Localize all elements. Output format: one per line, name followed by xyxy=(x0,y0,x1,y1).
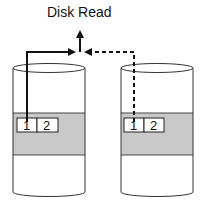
disk-1-blocks: 1 2 xyxy=(17,118,58,133)
disk-2-bottom xyxy=(121,192,193,197)
disk-2-blocks: 1 2 xyxy=(124,118,164,133)
block-2-label: 2 xyxy=(43,118,50,133)
disk-2-top xyxy=(121,64,193,73)
disk-1-bottom xyxy=(13,192,85,197)
disk-read-label: Disk Read xyxy=(47,4,112,20)
disk-1: 1 2 xyxy=(13,64,85,197)
disk-2: 1 2 xyxy=(121,64,193,197)
disk-read-diagram: Disk Read 1 2 1 2 xyxy=(0,0,203,210)
block-2-label: 2 xyxy=(150,118,157,133)
disk-1-top xyxy=(13,64,85,73)
